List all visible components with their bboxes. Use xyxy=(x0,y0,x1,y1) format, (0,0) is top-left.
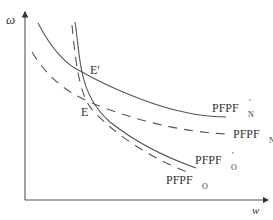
svg-text:O: O xyxy=(231,163,237,172)
label-base: PFPF xyxy=(195,153,222,167)
curve-pfpf-n xyxy=(32,52,228,134)
svg-text:PFPF: PFPF xyxy=(212,101,239,115)
curve-pfpf-o xyxy=(72,25,190,173)
svg-text:PFPF: PFPF xyxy=(233,127,260,141)
x-axis-label: w xyxy=(252,204,260,216)
label-sub: O xyxy=(202,182,208,191)
y-axis-label: ω xyxy=(6,12,15,27)
label-sub: N xyxy=(248,110,254,119)
label-base: PFPF xyxy=(212,101,239,115)
label-sub: N xyxy=(269,136,273,145)
label-sup: ′ xyxy=(232,150,234,160)
svg-text:PFPF: PFPF xyxy=(166,173,193,187)
label-sub: O xyxy=(231,163,237,172)
svg-text:N: N xyxy=(248,110,254,119)
label-base: PFPF xyxy=(233,127,260,141)
svg-text:N: N xyxy=(269,136,273,145)
diagram: ω w E′ E PFPF N ′ PFPF N PFPF O ′ PFPF O xyxy=(0,0,273,220)
point-label-e-prime: E′ xyxy=(90,63,100,77)
label-pfpf-o-prime: PFPF O ′ xyxy=(195,150,237,172)
label-base: PFPF xyxy=(166,173,193,187)
curve-pfpf-n-prime xyxy=(38,23,226,117)
label-pfpf-n-prime: PFPF N ′ xyxy=(212,97,254,119)
svg-text:′: ′ xyxy=(232,150,234,160)
label-pfpf-n: PFPF N xyxy=(233,127,273,145)
point-label-e: E xyxy=(81,105,88,119)
svg-text:′: ′ xyxy=(249,97,251,107)
svg-text:PFPF: PFPF xyxy=(195,153,222,167)
label-pfpf-o: PFPF O xyxy=(166,173,208,191)
label-sup: ′ xyxy=(249,97,251,107)
svg-text:O: O xyxy=(202,182,208,191)
